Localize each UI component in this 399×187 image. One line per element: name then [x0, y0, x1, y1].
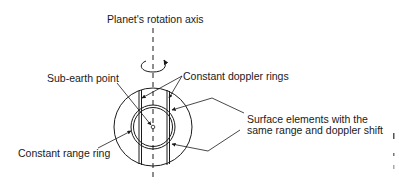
- sub-earth-point-dot: [151, 125, 155, 129]
- constant-range-ring-label: Constant range ring: [18, 148, 110, 159]
- sub-earth-point-label: Sub-earth point: [47, 73, 119, 84]
- constant-doppler-ring-left: [139, 90, 142, 165]
- doppler-ring-leader-left: [142, 76, 182, 98]
- surface-elements-leader-top: [172, 98, 244, 113]
- edge-artifact-1: [393, 133, 395, 139]
- rotation-axis-label: Planet's rotation axis: [107, 14, 204, 25]
- edge-artifact-3: [393, 165, 395, 169]
- surface-elements-label-line2: same range and doppler shift: [247, 125, 383, 136]
- constant-doppler-ring-right: [167, 90, 170, 165]
- edge-artifact-2: [393, 153, 395, 156]
- surface-elements-leader-bottom: [172, 130, 240, 151]
- constant-doppler-rings-label: Constant doppler rings: [183, 71, 289, 82]
